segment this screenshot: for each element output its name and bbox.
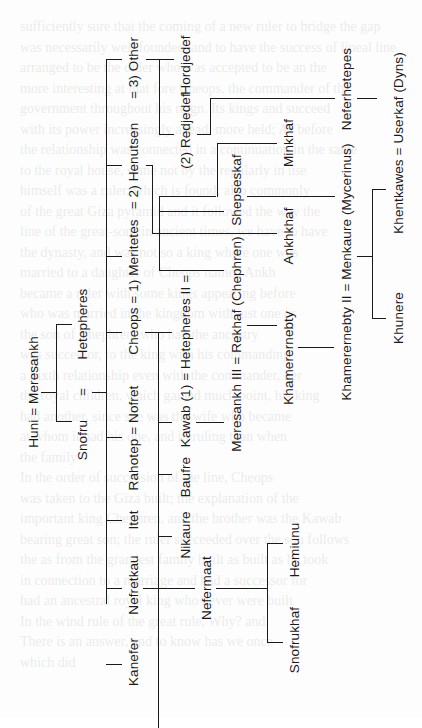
bleed-through-line: had an ancestral royal king who never we… <box>20 592 414 611</box>
connector <box>267 543 268 643</box>
connector <box>41 392 56 393</box>
bleed-through-line: sufficiently sure that the coming of a n… <box>20 18 414 37</box>
person-neferhetepes: Neferhetepes <box>339 48 354 130</box>
person-meresankh3-rekhaf: Meresankh III = Rekhaf (Chephren) <box>229 236 244 451</box>
connector <box>159 196 216 197</box>
person-hemiunu: Hemiunu <box>287 523 302 578</box>
bleed-through-line: government throughout his reign. Its kin… <box>20 100 414 119</box>
person-shepseskaf: Shepseskaf <box>229 154 244 226</box>
bleed-through-line: the as from the grandest family built as… <box>20 551 414 570</box>
person-nefermaat: Nefermaat <box>199 556 214 620</box>
bleed-through-line: more interesting at that fore Cheops, th… <box>20 80 414 99</box>
connector <box>106 256 122 257</box>
person-khentkawes-userkaf: Khentkawes = Userkaf (Dyns) <box>391 52 406 234</box>
marriage-sign: = <box>75 388 90 396</box>
person-khunere: Khunere <box>391 292 406 344</box>
connector <box>298 347 334 348</box>
connector <box>143 588 195 589</box>
connector <box>159 134 174 135</box>
person-itet: Itet <box>126 510 141 529</box>
connector <box>56 421 72 422</box>
connector <box>152 165 153 233</box>
connector <box>159 211 224 212</box>
connector <box>159 270 224 271</box>
bleed-through-line: a Sixth relationship even with the comma… <box>20 367 414 386</box>
connector <box>56 324 72 325</box>
bleed-through-line: bearing great son; the ruler succeeded o… <box>20 531 414 550</box>
person-henutsen: = 2) Henutsen <box>126 123 141 209</box>
person-hetepheres: Hetepheres <box>75 289 90 360</box>
connector <box>106 332 122 333</box>
connector <box>158 422 172 423</box>
person-cheops-meritetes: Cheops = 1) Meritetes <box>126 219 141 354</box>
connector <box>217 143 218 197</box>
bleed-through-line: In the order of succession of the line, … <box>20 469 414 488</box>
connector <box>357 256 372 257</box>
person-huni-meresankh: Huni = Meresankh <box>26 336 41 448</box>
bleed-through-line: with its power increasingly ahead, more … <box>20 121 414 140</box>
bleed-through-line: In the wind rule of the great rule, Why?… <box>20 613 414 632</box>
person-ankhkhaf: Ankhkhaf <box>281 207 296 264</box>
bleed-through-line: which did <box>20 654 414 673</box>
person-snofru: Snofru <box>75 420 90 460</box>
person-khamerernebty: Khamerernebty <box>281 311 296 405</box>
connector <box>159 59 160 135</box>
connector <box>158 474 172 475</box>
bleed-through-line: the dynasty, and was not so a king where… <box>20 244 414 263</box>
connector <box>152 233 277 234</box>
connector <box>247 196 335 197</box>
person-nikaure: Nikaure <box>178 511 193 558</box>
person-kanefer: Kanefer <box>126 638 141 686</box>
connector <box>106 520 122 521</box>
connector <box>267 642 283 643</box>
connector <box>158 536 172 537</box>
connector <box>372 318 386 319</box>
person-khamerernebty2-menkaure: Khamerernebty II = Menkaure (Mycerinus) <box>339 143 354 400</box>
connector <box>106 664 122 665</box>
bleed-through-line: was taken to the Giza built; the explana… <box>20 490 414 509</box>
connector <box>106 59 122 60</box>
connector <box>106 588 122 589</box>
person-baufre: Baufre <box>178 457 193 497</box>
person-other: = 3) Other <box>126 37 141 99</box>
connector <box>216 588 267 589</box>
person-snofrukhaf: Snofrukhaf <box>287 607 302 673</box>
connector <box>106 437 122 438</box>
person-minkhaf: Minkhaf <box>281 119 296 167</box>
connector <box>372 189 386 190</box>
connector <box>56 324 57 422</box>
connector <box>197 134 210 135</box>
connector <box>267 543 283 544</box>
bleed-through-line: There is an answer, and to know has we o… <box>20 633 414 652</box>
connector <box>357 98 377 99</box>
bleed-through-line: was necessarily well founded, and to hav… <box>20 39 414 58</box>
bleed-through-line: arranged to be the older who was accepte… <box>20 59 414 78</box>
connector <box>210 98 335 99</box>
connector <box>92 392 106 393</box>
person-redjedef: (2) Redjedef <box>178 93 193 169</box>
connector <box>372 189 373 319</box>
bleed-through-line: important king Chephren, and the brother… <box>20 510 414 529</box>
connector <box>158 332 159 728</box>
bleed-through-line: married to a daughter of Cheops named An… <box>20 264 414 283</box>
connector <box>217 143 277 144</box>
person-kawab-hetepheres2: Kawab (1) = Hetepheres II = <box>178 275 193 447</box>
connector <box>159 196 160 271</box>
person-rahotep-nofret: Rahotep = Nofret <box>126 386 141 491</box>
connector <box>247 325 277 326</box>
person-hordjedef: Hordjedef <box>178 35 193 94</box>
connector <box>106 165 122 166</box>
connector <box>210 98 211 135</box>
connector <box>196 422 224 423</box>
person-nefretkau: Nefretkau <box>126 555 141 614</box>
